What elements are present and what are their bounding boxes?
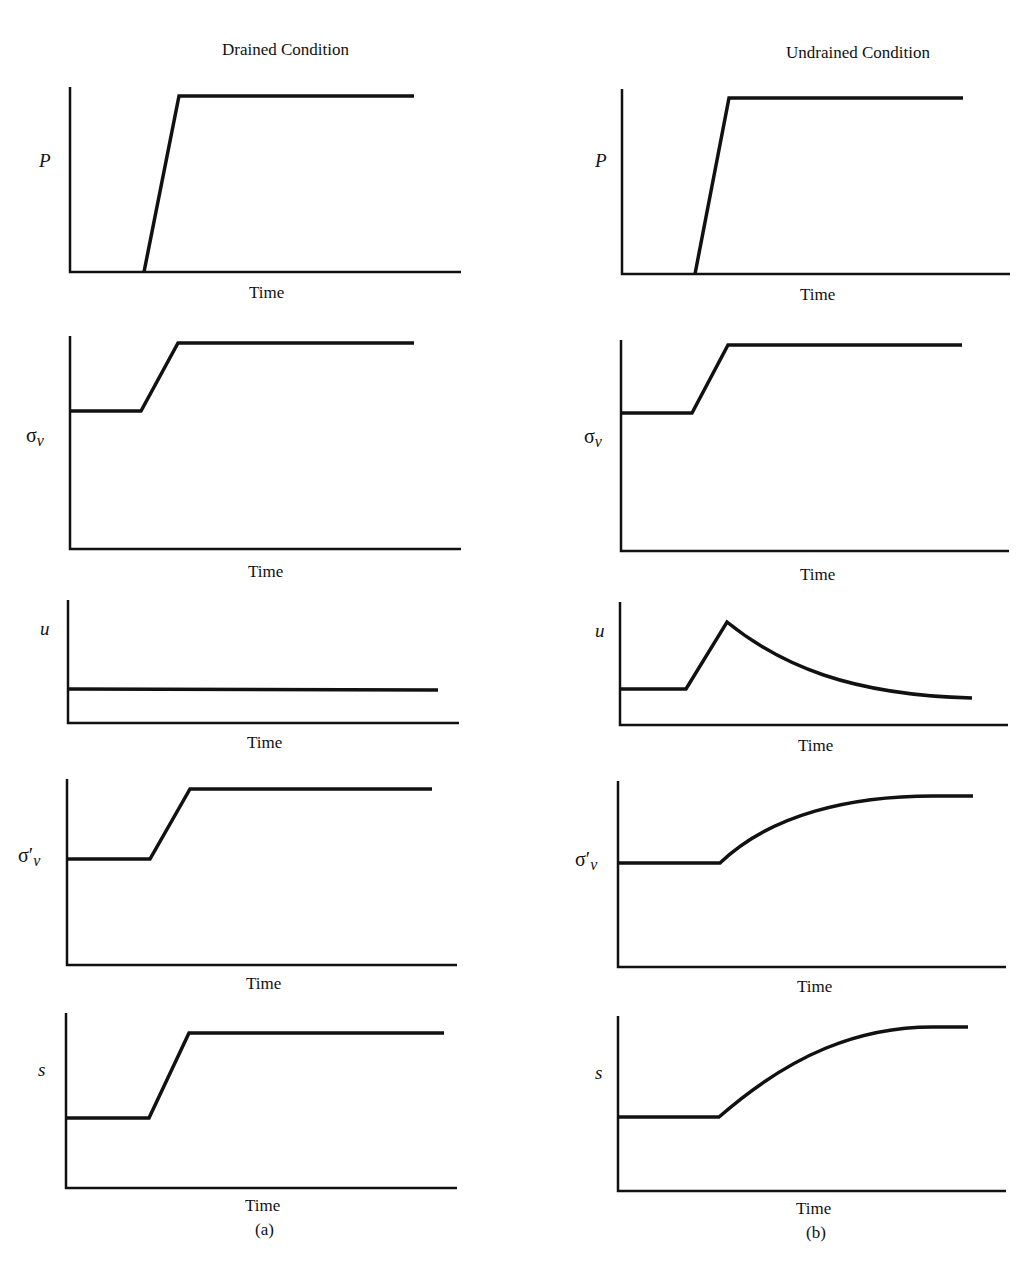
drained-sigma-v-chart — [70, 336, 461, 549]
pore-pressure-line — [620, 622, 972, 698]
total-stress-line — [70, 343, 414, 411]
axes — [622, 89, 1010, 274]
drained-sigma-v-eff-chart — [67, 779, 457, 965]
drained-u-chart — [68, 600, 459, 723]
load-line — [144, 96, 414, 272]
sigma-prime-symbol: σ′ — [575, 848, 590, 870]
sigma-prime-symbol: σ′ — [18, 844, 33, 866]
undrained-sigma-v-chart — [621, 340, 1009, 551]
sub-v: v — [590, 856, 597, 873]
y-label-s: s — [595, 1062, 602, 1084]
figure-canvas — [0, 0, 1029, 1267]
y-label-p: P — [595, 150, 607, 172]
effective-stress-line — [618, 796, 973, 863]
sub-v: v — [33, 852, 40, 869]
drained-s-chart — [66, 1013, 457, 1188]
sub-v: v — [37, 432, 44, 449]
y-label-sigma-v: σv — [26, 424, 44, 447]
axes — [620, 602, 1008, 725]
y-label-u: u — [595, 620, 605, 642]
sigma-symbol: σ — [26, 424, 37, 446]
drained-p-chart — [70, 87, 461, 272]
x-label-time: Time — [796, 1199, 831, 1219]
effective-stress-line — [67, 789, 432, 859]
total-stress-line — [621, 345, 962, 413]
undrained-p-chart — [622, 89, 1010, 274]
y-label-s: s — [38, 1059, 45, 1081]
undrained-s-chart — [618, 1016, 1006, 1191]
y-label-sigma-v-eff: σ′v — [575, 848, 597, 871]
undrained-u-chart — [620, 602, 1008, 725]
axes — [618, 1016, 1006, 1191]
undrained-sigma-v-eff-chart — [618, 781, 1006, 967]
x-label-time: Time — [249, 283, 284, 303]
x-label-time: Time — [248, 562, 283, 582]
x-label-time: Time — [798, 736, 833, 756]
strength-line — [618, 1027, 968, 1117]
axes — [618, 781, 1006, 967]
axes — [621, 340, 1009, 551]
y-label-p: P — [39, 150, 51, 172]
sub-v: v — [595, 433, 602, 450]
axes — [70, 87, 461, 272]
x-label-time: Time — [246, 974, 281, 994]
pore-pressure-line — [68, 689, 438, 690]
axes — [70, 336, 461, 549]
y-label-sigma-v: σv — [584, 425, 602, 448]
axes — [68, 600, 459, 723]
x-label-time: Time — [800, 285, 835, 305]
y-label-sigma-v-eff: σ′v — [18, 844, 40, 867]
x-label-time: Time — [797, 977, 832, 997]
panel-label-a: (a) — [255, 1220, 274, 1240]
x-label-time: Time — [800, 565, 835, 585]
panel-label-b: (b) — [806, 1223, 826, 1243]
x-label-time: Time — [247, 733, 282, 753]
load-line — [695, 98, 963, 274]
axes — [67, 779, 457, 965]
y-label-u: u — [40, 618, 50, 640]
sigma-symbol: σ — [584, 425, 595, 447]
axes — [66, 1013, 457, 1188]
strength-line — [66, 1033, 444, 1118]
x-label-time: Time — [245, 1196, 280, 1216]
